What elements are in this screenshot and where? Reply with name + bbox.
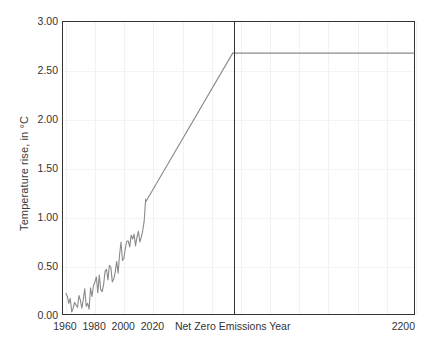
x-tick-label: Net Zero Emissions Year [175,320,291,332]
x-tick-label: 2000 [112,320,135,332]
vertical-gridline [416,22,417,314]
plot-area [62,21,415,315]
series-projected-warming-to-net-zero [146,53,233,202]
y-tick-label: 2.50 [24,64,58,76]
x-tick-label: 2020 [141,320,164,332]
x-tick-label: 2200 [392,320,415,332]
y-axis-tick-labels: 0.000.501.001.502.002.503.00 [20,21,58,315]
y-tick-label: 1.50 [24,162,58,174]
temperature-rise-chart-figure: Temperature rise, in °C 0.000.501.001.50… [0,0,436,347]
data-series-layer [63,22,414,314]
net-zero-emissions-year-line [234,21,236,315]
y-tick-label: 1.00 [24,211,58,223]
y-tick-label: 2.00 [24,113,58,125]
y-tick-label: 3.00 [24,15,58,27]
x-tick-label: 1960 [53,320,76,332]
x-tick-label: 1980 [82,320,105,332]
series-historical-observed-temperature [66,199,146,312]
y-tick-label: 0.50 [24,260,58,272]
